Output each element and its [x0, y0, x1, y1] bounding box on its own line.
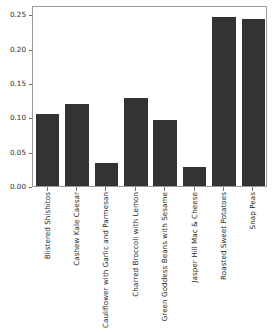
x-axis-tick-label: Charred Broccoli with Lemon — [130, 192, 139, 297]
y-axis-tick-label: 0.15 — [10, 79, 26, 88]
x-tick-mark — [105, 187, 106, 191]
bar — [153, 120, 177, 186]
x-axis: Blistered ShishitosCashew Kale CaesarCau… — [32, 187, 267, 332]
x-tick-mark — [76, 187, 77, 191]
bar — [36, 114, 60, 186]
y-axis-tick-label: 0.00 — [10, 182, 26, 191]
bar — [183, 167, 207, 186]
x-tick-mark — [223, 187, 224, 191]
bar — [212, 17, 236, 186]
x-axis-tick-label: Green Goddess Beans with Sesame — [160, 192, 169, 321]
bar — [95, 163, 119, 186]
x-tick-mark — [47, 187, 48, 191]
x-axis-tick-label: Blistered Shishitos — [42, 192, 51, 259]
x-tick-mark — [194, 187, 195, 191]
x-axis-tick-label: Snap Peas — [248, 192, 257, 229]
y-axis: 0.000.050.100.150.200.25 — [0, 0, 32, 193]
y-axis-tick-label: 0.05 — [10, 148, 26, 157]
x-axis-tick-label: Cashew Kale Caesar — [72, 192, 81, 266]
x-tick-mark — [252, 187, 253, 191]
x-axis-tick-label: Cauliflower with Garlic and Parmesan — [101, 192, 110, 328]
x-axis-tick-label: Roasted Sweet Potatoes — [218, 192, 227, 280]
x-axis-tick-label: Jasper Hill Mac & Cheese — [189, 192, 198, 283]
y-axis-tick-label: 0.25 — [10, 10, 26, 19]
bar — [242, 19, 266, 186]
plot-area — [32, 6, 267, 187]
y-axis-tick-label: 0.10 — [10, 113, 26, 122]
bar — [65, 104, 89, 186]
bar-chart-figure: 0.000.050.100.150.200.25 Blistered Shish… — [0, 0, 275, 332]
y-axis-tick-label: 0.20 — [10, 45, 26, 54]
bar — [124, 98, 148, 186]
x-tick-mark — [135, 187, 136, 191]
bars-layer — [33, 7, 266, 186]
x-tick-mark — [164, 187, 165, 191]
